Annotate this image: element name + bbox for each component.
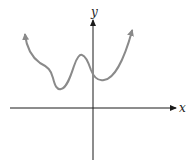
function-curve xyxy=(25,31,132,89)
function-graph: x y xyxy=(0,0,191,163)
x-axis-label: x xyxy=(179,101,186,115)
y-axis-label: y xyxy=(90,5,98,19)
curve-right-arrow-icon xyxy=(131,30,132,34)
